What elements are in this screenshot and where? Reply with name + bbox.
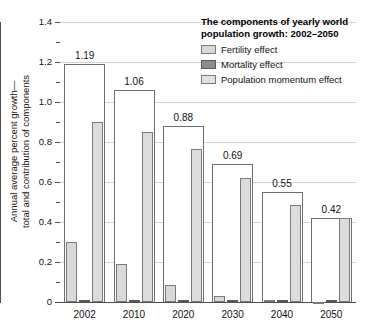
- y-axis-tick: [55, 302, 60, 303]
- momentum-bar: [240, 178, 251, 302]
- y-axis-line: [0, 22, 1, 303]
- y-axis-tick-label: 0.6: [12, 176, 52, 187]
- fertility-swatch-icon: [201, 45, 216, 54]
- momentum-bar: [92, 122, 103, 302]
- fertility-bar: [214, 296, 225, 302]
- fertility-bar: [264, 300, 275, 302]
- fertility-bar: [66, 242, 77, 302]
- x-axis-tick-label: 2030: [208, 309, 257, 320]
- mortality-bar: [129, 300, 140, 302]
- y-axis-tick-label: 0.4: [12, 216, 52, 227]
- mortality-bar: [178, 300, 189, 302]
- y-axis-tick-label: 0.8: [12, 136, 52, 147]
- population-growth-chart: Annual average percent growth— total and…: [0, 0, 365, 335]
- legend-item-fertility: Fertility effect: [201, 43, 365, 56]
- legend-title: The components of yearly world populatio…: [201, 16, 365, 39]
- legend-item-label: Fertility effect: [221, 44, 277, 55]
- mortality-bar: [79, 300, 90, 302]
- mortality-bar: [277, 300, 288, 302]
- total-value-label: 0.42: [305, 204, 358, 215]
- total-value-label: 1.19: [58, 50, 111, 61]
- momentum-bar: [142, 132, 153, 302]
- legend-entries: Fertility effectMortality effectPopulati…: [201, 43, 365, 86]
- mortality-bar: [326, 300, 337, 302]
- mortality-swatch-icon: [201, 60, 216, 69]
- momentum-swatch-icon: [201, 75, 216, 84]
- legend-title-line-1: The components of yearly world: [201, 16, 365, 28]
- legend-item-mortality: Mortality effect: [201, 58, 365, 71]
- legend-item-momentum: Population momentum effect: [201, 73, 365, 86]
- y-axis-tick-label: 1.0: [12, 96, 52, 107]
- fertility-bar: [116, 264, 127, 302]
- momentum-bar: [339, 218, 350, 302]
- total-value-label: 0.88: [157, 112, 210, 123]
- fertility-bar: [165, 285, 176, 302]
- legend-item-label: Population momentum effect: [221, 74, 342, 85]
- x-axis-tick-label: 2050: [307, 309, 356, 320]
- y-axis-tick-label: 0: [12, 296, 52, 307]
- y-axis-tick-label: 1.2: [12, 56, 52, 67]
- legend-item-label: Mortality effect: [221, 59, 283, 70]
- mortality-bar: [227, 300, 238, 302]
- x-axis-line: [60, 302, 356, 303]
- momentum-bar: [290, 205, 301, 302]
- x-axis-tick-label: 2040: [257, 309, 306, 320]
- momentum-bar: [191, 149, 202, 302]
- total-value-label: 0.55: [256, 178, 309, 189]
- legend-title-line-2: population growth: 2002–2050: [201, 28, 365, 40]
- fertility-bar: [313, 302, 324, 304]
- total-value-label: 0.69: [206, 150, 259, 161]
- x-axis-tick-label: 2020: [159, 309, 208, 320]
- total-value-label: 1.06: [108, 76, 161, 87]
- x-axis-tick-label: 2010: [109, 309, 158, 320]
- y-axis-tick-label: 0.2: [12, 256, 52, 267]
- x-axis-tick-label: 2002: [60, 309, 109, 320]
- legend: The components of yearly world populatio…: [201, 16, 365, 88]
- y-axis-tick-label: 1.4: [12, 16, 52, 27]
